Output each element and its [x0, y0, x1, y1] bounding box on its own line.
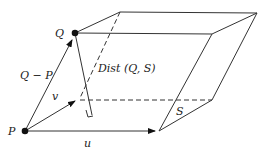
label-u: u — [84, 137, 91, 150]
point-p — [22, 128, 29, 135]
edge-top-front — [75, 33, 212, 34]
parallelepiped-diagram: Q P Q − P v u Dist (Q, S) S — [0, 0, 267, 155]
label-q-minus-p: Q − P — [20, 69, 53, 82]
edge-top-back — [120, 12, 257, 13]
point-q — [72, 30, 79, 37]
label-dist: Dist (Q, S) — [97, 62, 155, 75]
label-v: v — [52, 90, 59, 103]
edge-back-right — [212, 13, 257, 100]
edge-top-left — [75, 12, 120, 33]
label-q: Q — [55, 27, 64, 40]
distance-line — [75, 33, 92, 115]
edge-front-right — [159, 34, 212, 131]
label-s: S — [176, 105, 184, 118]
edge-top-right — [212, 13, 257, 34]
label-p: P — [7, 125, 16, 138]
